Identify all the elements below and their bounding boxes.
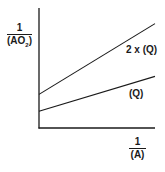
series-line-2xq [39, 24, 155, 95]
y-label-numerator: 1 [17, 23, 23, 34]
y-label-den-end: ) [29, 35, 32, 46]
x-label-numerator: 1 [135, 137, 141, 148]
chart: 1 (AO2) 1 (A) 2 x (Q) (Q) [0, 0, 165, 172]
y-axis-label: 1 (AO2) [7, 23, 32, 46]
y-label-den-main: (AO [7, 35, 25, 46]
series-label-q: (Q) [129, 88, 143, 99]
x-axis-label: 1 (A) [129, 137, 146, 160]
x-label-denominator: (A) [131, 150, 145, 160]
y-label-denominator: (AO2) [7, 36, 32, 46]
series-label-2xq: 2 x (Q) [126, 44, 157, 55]
